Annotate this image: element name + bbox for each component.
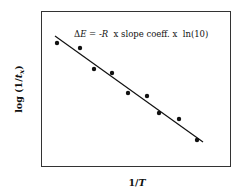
- data-point: [145, 94, 149, 98]
- data-point: [126, 91, 130, 95]
- equation-annotation: ΔE = -R x slope coeff. x ln(10): [74, 29, 208, 39]
- data-points: [55, 41, 199, 142]
- y-axis-label: log (1/tx): [13, 65, 26, 113]
- data-point: [110, 71, 114, 75]
- x-axis-label: 1/T: [128, 177, 146, 188]
- data-point: [78, 46, 82, 50]
- data-point: [177, 117, 181, 121]
- data-point: [55, 41, 59, 45]
- data-point: [92, 67, 96, 71]
- arrhenius-chart: ΔE = -R x slope coeff. x ln(10) log (1/t…: [0, 0, 243, 193]
- fit-line: [55, 36, 203, 142]
